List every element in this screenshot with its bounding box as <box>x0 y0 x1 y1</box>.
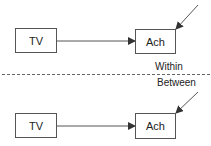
between-label: Between <box>157 77 196 88</box>
between-panel: Between TV Ach <box>16 77 199 139</box>
residual-arrow-top <box>176 5 198 29</box>
within-label: Within <box>155 61 183 72</box>
tv-label-top: TV <box>29 35 44 47</box>
within-panel: TV Ach Within <box>16 5 199 72</box>
path-diagram: TV Ach Within Between TV Ach <box>0 0 211 146</box>
residual-arrow-bottom <box>176 92 198 113</box>
ach-label-bottom: Ach <box>146 120 165 132</box>
ach-label-top: Ach <box>146 36 165 48</box>
tv-label-bottom: TV <box>29 120 44 132</box>
